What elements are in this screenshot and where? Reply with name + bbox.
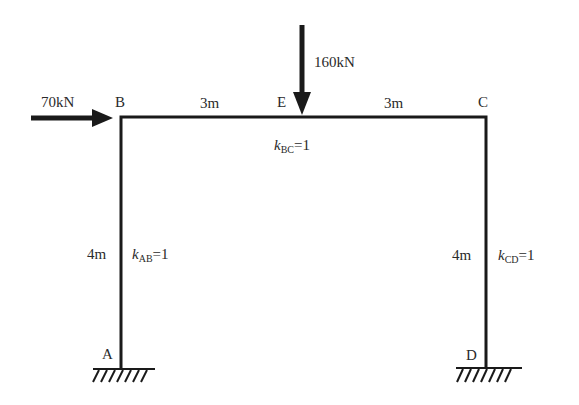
dimension-ab: 4m: [87, 247, 106, 262]
stiffness-subscript: AB: [139, 253, 153, 264]
vertical-load-label: 160kN: [314, 55, 355, 70]
frame-drawing: [0, 0, 579, 405]
stiffness-subscript: BC: [281, 144, 294, 155]
vertical-load-arrow: [293, 25, 311, 115]
fixed-support-a: [93, 369, 155, 382]
node-label-e: E: [277, 95, 286, 110]
stiffness-subscript: CD: [505, 254, 519, 265]
node-label-c: C: [478, 95, 488, 110]
stiffness-symbol: k: [274, 137, 281, 153]
stiffness-bc: kBC=1: [274, 138, 310, 155]
dimension-be: 3m: [200, 96, 219, 111]
horizontal-load-label: 70kN: [41, 95, 74, 110]
stiffness-symbol: k: [132, 246, 139, 262]
stiffness-symbol: k: [498, 247, 505, 263]
node-label-a: A: [102, 347, 113, 362]
stiffness-value: =1: [153, 246, 169, 262]
stiffness-ab: kAB=1: [132, 247, 169, 264]
fixed-support-d: [456, 368, 522, 382]
dimension-ec: 3m: [384, 96, 403, 111]
stiffness-value: =1: [519, 247, 535, 263]
stiffness-cd: kCD=1: [498, 248, 535, 265]
stiffness-value: =1: [294, 137, 310, 153]
node-label-d: D: [466, 348, 477, 363]
horizontal-load-arrow: [31, 109, 113, 127]
dimension-cd: 4m: [452, 248, 471, 263]
node-label-b: B: [115, 95, 125, 110]
